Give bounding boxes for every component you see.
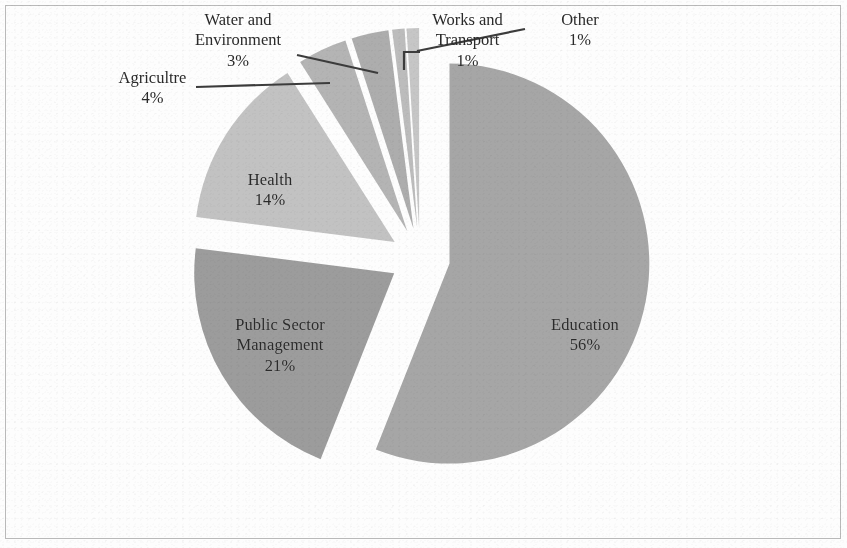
- slice-label-works-and-transport-name-line2: Transport: [405, 30, 530, 50]
- slice-label-education: Education 56%: [500, 315, 670, 356]
- slice-label-health: Health 14%: [205, 170, 335, 211]
- slice-label-other-value: 1%: [535, 30, 625, 50]
- leader-line-agricultre: [196, 83, 330, 87]
- slice-label-water-and-environment-value: 3%: [168, 51, 308, 71]
- slice-label-public-sector-management-name-line1: Public Sector: [185, 315, 375, 335]
- slice-label-other-name: Other: [535, 10, 625, 30]
- slice-label-works-and-transport-value: 1%: [405, 51, 530, 71]
- slice-label-works-and-transport-name-line1: Works and: [405, 10, 530, 30]
- slice-label-works-and-transport: Works and Transport 1%: [405, 10, 530, 71]
- slice-label-water-and-environment-name-line2: Environment: [168, 30, 308, 50]
- slice-label-education-value: 56%: [500, 335, 670, 355]
- slice-label-education-name: Education: [500, 315, 670, 335]
- slice-label-water-and-environment: Water and Environment 3%: [168, 10, 308, 71]
- slice-label-public-sector-management: Public Sector Management 21%: [185, 315, 375, 376]
- slice-label-agricultre: Agricultre 4%: [90, 68, 215, 109]
- chart-page: Education 56% Public Sector Management 2…: [0, 0, 847, 548]
- slice-label-water-and-environment-name-line1: Water and: [168, 10, 308, 30]
- slice-label-health-value: 14%: [205, 190, 335, 210]
- slice-label-public-sector-management-name-line2: Management: [185, 335, 375, 355]
- slice-label-other: Other 1%: [535, 10, 625, 51]
- slice-label-agricultre-value: 4%: [90, 88, 215, 108]
- slice-label-health-name: Health: [205, 170, 335, 190]
- slice-label-public-sector-management-value: 21%: [185, 356, 375, 376]
